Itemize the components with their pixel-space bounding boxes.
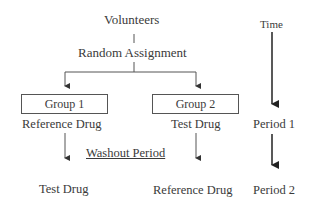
period-1-label: Period 1 [253, 117, 295, 131]
group-2-period-2-drug: Reference Drug [153, 183, 232, 197]
group-1-box: Group 1 [21, 94, 108, 114]
period-2-label: Period 2 [253, 183, 295, 197]
group-1-period-2-drug: Test Drug [39, 182, 88, 196]
washout-period-label: Washout Period [86, 146, 165, 160]
group-1-period-1-drug: Reference Drug [22, 117, 101, 131]
group-2-box: Group 2 [152, 94, 239, 114]
time-label: Time [260, 17, 283, 31]
random-assignment-node: Random Assignment [78, 46, 187, 60]
group-2-period-1-drug: Test Drug [171, 117, 220, 131]
volunteers-node: Volunteers [104, 13, 159, 27]
